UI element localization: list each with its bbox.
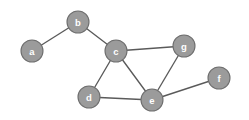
- graph-node-label-b: b: [75, 17, 81, 28]
- graph-node-c[interactable]: c: [105, 40, 127, 62]
- graph-node-label-c: c: [113, 46, 118, 57]
- graph-node-b[interactable]: b: [67, 11, 89, 33]
- graph-node-label-g: g: [181, 41, 187, 52]
- graph-diagram: abcdefg: [0, 0, 249, 120]
- edge-layer: [32, 22, 219, 100]
- graph-canvas: abcdefg: [0, 0, 249, 120]
- graph-node-label-d: d: [86, 92, 92, 103]
- graph-node-a[interactable]: a: [21, 40, 43, 62]
- graph-node-label-e: e: [149, 95, 154, 106]
- graph-node-d[interactable]: d: [78, 86, 100, 108]
- graph-node-label-a: a: [29, 46, 35, 57]
- node-layer: abcdefg: [21, 11, 230, 111]
- graph-node-e[interactable]: e: [141, 89, 163, 111]
- graph-node-f[interactable]: f: [208, 67, 230, 89]
- graph-node-g[interactable]: g: [173, 35, 195, 57]
